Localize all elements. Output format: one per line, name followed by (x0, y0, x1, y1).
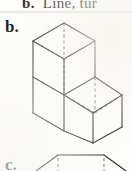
edge-c-top-right-slope (104, 155, 126, 171)
figure-c-svg (0, 0, 132, 171)
figure-c-visible-edges (36, 155, 126, 171)
scanned-textbook-figure-page: b. Line, tur b. (0, 0, 132, 171)
figure-c-isometric-cubes (0, 0, 132, 171)
edge-c-top-left-slope (36, 155, 58, 171)
figure-c-hidden-edges (58, 158, 104, 171)
